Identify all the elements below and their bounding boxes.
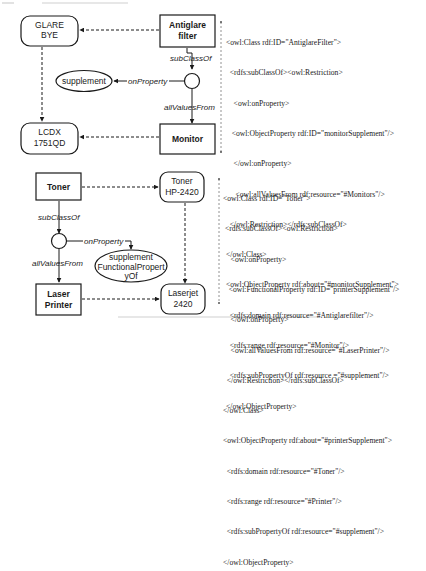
owl-code-block-2: <owl:Class rdf:ID="Toner"> <rdfs:subClas… [223, 174, 399, 571]
restriction-circle-2 [52, 234, 67, 249]
node-antiglare-filter: Antiglare filter [160, 15, 215, 47]
node-toner-hp-line1: Toner [171, 176, 192, 186]
label-subclassof-1: subClassOf [170, 54, 212, 63]
code-line: </owl:Class> [223, 406, 399, 416]
label-onproperty-1: onProperty [128, 77, 168, 86]
diagram-2: Toner Toner HP-2420 subClassOf onPropert… [32, 172, 220, 315]
node-laserjet-line1: Laserjet [168, 288, 199, 298]
node-lcdx: LCDX 1751QD [21, 123, 78, 154]
node-supplement-fp-line2: FunctionalPropert [97, 262, 165, 272]
node-laser-printer: Laser Printer [36, 284, 81, 315]
code-line: </owl:ObjectProperty> [223, 558, 399, 568]
code-line: </owl:Restriction></rdfs:subClassOf> [223, 376, 399, 386]
code-line: <owl:onProperty> [226, 99, 399, 109]
code-line: </owl:onProperty> [226, 159, 399, 169]
node-laser-printer-line2: Printer [45, 300, 73, 310]
code-line: <rdfs:range rdf:resource="#Printer"/> [223, 497, 399, 507]
code-line: </owl:onProperty> [223, 315, 399, 325]
code-line: <rdfs:domain rdf:resource="#Toner"/> [223, 467, 399, 477]
node-glare-bye-line1: GLARE [35, 20, 64, 30]
code-line: <rdfs:subClassOf><owl:Restriction> [223, 224, 399, 234]
node-antiglare-filter-line1: Antiglare [169, 20, 206, 30]
node-supplement-fp-line3: yOf [124, 271, 138, 281]
node-supplement: supplement [56, 71, 112, 92]
node-laserjet-line2: 2420 [174, 299, 193, 309]
code-line: <owl:Class rdf:ID="Toner"> [223, 194, 399, 204]
code-line: <rdfs:subClassOf><owl:Restriction> [226, 68, 399, 78]
code-line: <owl:ObjectProperty rdf:about="#printerS… [223, 436, 399, 446]
node-laser-printer-line1: Laser [47, 289, 70, 299]
node-toner: Toner [36, 173, 81, 200]
label-onproperty-2: onProperty [84, 237, 124, 246]
code-line: <owl:Class rdf:ID="AntiglareFilter"> [226, 38, 399, 48]
label-allvaluesfrom-2: allValuesFrom [32, 259, 83, 268]
label-subclassof-2: subClassOf [38, 213, 80, 222]
diagram-1: GLARE BYE Antiglare filter subClassOf on… [21, 15, 222, 154]
node-antiglare-filter-line2: filter [178, 31, 197, 41]
node-supplement-functionalpropertyof: supplement FunctionalPropert yOf [95, 250, 167, 282]
node-toner-hp: Toner HP-2420 [160, 172, 204, 202]
node-monitor: Monitor [160, 124, 215, 154]
node-supplement-fp-line1: supplement [109, 252, 154, 262]
node-lcdx-line1: LCDX [38, 127, 61, 137]
node-lcdx-line2: 1751QD [34, 138, 66, 148]
node-toner-label: Toner [47, 182, 71, 192]
restriction-circle-1 [185, 74, 200, 89]
node-glare-bye: GLARE BYE [21, 16, 78, 46]
node-monitor-label: Monitor [172, 134, 204, 144]
node-glare-bye-line2: BYE [41, 30, 58, 40]
node-laserjet: Laserjet 2420 [161, 284, 205, 314]
code-line: <owl:ObjectProperty rdf:ID="monitorSuppl… [226, 129, 399, 139]
node-toner-hp-line2: HP-2420 [165, 187, 199, 197]
code-line: <owl:allValuesFrom rdf:resource="#LaserP… [223, 346, 399, 356]
node-supplement-label: supplement [62, 76, 107, 86]
code-line: <owl:FunctionalProperty rdf:ID="printerS… [223, 285, 399, 295]
code-line: <owl:onProperty> [223, 255, 399, 265]
label-allvaluesfrom-1: allValuesFrom [164, 103, 215, 112]
code-line: <rdfs:subPropertyOf rdf:resource="#suppl… [223, 527, 399, 537]
